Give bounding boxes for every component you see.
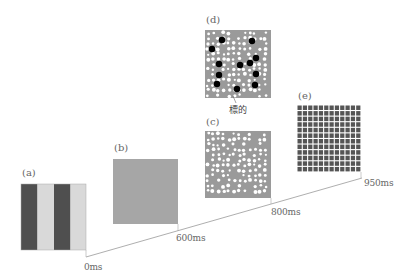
- panel-e-grid-mask: [297, 105, 361, 172]
- panel-c-dot-field: [205, 131, 271, 198]
- panel-d-target-field: [205, 30, 271, 98]
- time-label-0ms: 0ms: [84, 262, 102, 272]
- panel-a-stripes: [21, 184, 86, 250]
- panel-d-label: (d): [206, 14, 220, 25]
- panel-e-label: (e): [298, 90, 312, 101]
- time-label-800ms: 800ms: [271, 207, 300, 217]
- time-label-950ms: 950ms: [364, 178, 393, 188]
- panel-b-gray-field: [113, 159, 178, 224]
- panel-c-label: (c): [206, 116, 219, 127]
- panel-a-label: (a): [22, 167, 36, 178]
- time-label-600ms: 600ms: [176, 233, 205, 243]
- target-annotation: 標的: [229, 103, 247, 116]
- panel-b-label: (b): [114, 142, 128, 153]
